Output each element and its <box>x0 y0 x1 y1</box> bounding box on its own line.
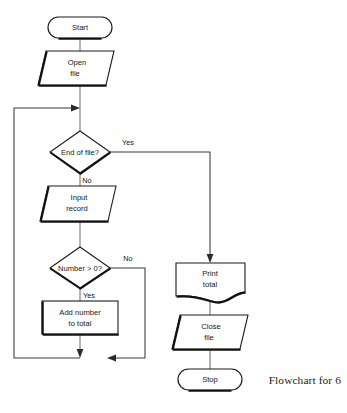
node-close-file-label-line2: file <box>204 333 214 342</box>
node-number-greater-zero-label: Number > 0? <box>58 264 102 273</box>
node-input-record-label-line1: Input <box>71 193 89 202</box>
node-stop[interactable]: Stop <box>178 369 242 391</box>
arrowhead-add-number <box>77 349 84 358</box>
node-stop-label: Stop <box>202 375 218 384</box>
arrowhead-number-no <box>107 355 116 362</box>
node-open-file-label-line2: file <box>70 69 80 78</box>
branch-label-eof-no: No <box>82 176 91 185</box>
connector-add-number-to-loop <box>77 334 84 358</box>
node-close-file-label-line1: Close <box>201 322 220 331</box>
node-print-total[interactable]: Print total <box>176 263 246 303</box>
node-print-total-label-line2: total <box>203 280 218 289</box>
node-print-total-label-line1: Print <box>202 269 219 278</box>
node-end-of-file-label: End of file? <box>61 148 99 157</box>
branch-label-eof-yes: Yes <box>122 138 134 147</box>
branch-label-number-no: No <box>123 254 132 263</box>
arrowhead-loop-back <box>71 105 80 112</box>
node-add-number-label-line1: Add number <box>59 308 101 317</box>
flowchart-canvas: Start Open file End of file? Input recor… <box>0 0 347 413</box>
connector-eof-yes-to-print-total <box>110 152 213 263</box>
branch-label-number-yes: Yes <box>83 291 95 300</box>
flowchart-svg: Start Open file End of file? Input recor… <box>0 0 347 413</box>
node-input-record[interactable]: Input record <box>40 186 116 222</box>
node-add-number-label-line2: to total <box>69 319 92 328</box>
node-number-greater-zero[interactable]: Number > 0? <box>50 247 110 289</box>
node-open-file-label-line1: Open <box>68 58 87 67</box>
node-open-file[interactable]: Open file <box>38 51 114 86</box>
arrowhead-eof-yes <box>207 254 214 263</box>
node-input-record-label-line2: record <box>66 204 88 213</box>
diagram-caption: Flowchart for 6 <box>269 374 341 386</box>
node-close-file[interactable]: Close file <box>172 315 248 350</box>
node-start[interactable]: Start <box>48 17 112 39</box>
node-end-of-file[interactable]: End of file? <box>50 131 110 174</box>
node-start-label: Start <box>72 23 89 32</box>
node-add-number-to-total[interactable]: Add number to total <box>42 301 119 335</box>
